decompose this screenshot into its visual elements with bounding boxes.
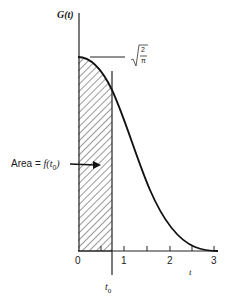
y-axis-label: G(t) bbox=[57, 10, 74, 20]
tick-label-0: 0 bbox=[75, 256, 81, 266]
tick-label-3: 3 bbox=[211, 256, 217, 266]
tick-label-1: 1 bbox=[121, 256, 127, 266]
x-axis-label: t bbox=[189, 268, 192, 277]
peak-sqrt-denominator: π bbox=[141, 57, 146, 64]
area-close: ) bbox=[56, 158, 59, 169]
tick-label-2: 2 bbox=[167, 256, 173, 266]
half-normal-plot bbox=[0, 0, 233, 307]
peak-sqrt-numerator: 2 bbox=[141, 46, 145, 53]
area-prefix: Area = bbox=[11, 158, 44, 169]
area-label: Area = f(t0) bbox=[11, 159, 60, 171]
t0-label: t0 bbox=[105, 282, 111, 295]
t0-sub: 0 bbox=[108, 287, 112, 295]
